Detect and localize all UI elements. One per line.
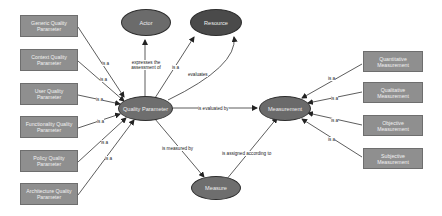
edge-label-is-evaluated-by: is evaluated by: [198, 106, 229, 111]
quality-parameter-node: Quality Parameter: [118, 96, 173, 121]
edge-label-is-a: is a: [331, 96, 338, 101]
edge-label-expresses-assessment: expresses the assessment of: [128, 60, 164, 70]
architecture-quality-parameter-node: Architecture Quality Parameter: [20, 183, 78, 205]
edge-label-is-measured-by: is measured by: [162, 146, 193, 151]
user-quality-parameter-node: User Quality Parameter: [20, 83, 78, 105]
measure-node: Measure: [191, 176, 241, 200]
actor-node: Actor: [121, 9, 171, 36]
edge-label-is-a: is a: [100, 77, 107, 82]
generic-quality-parameter-node: Generic Quality Parameter: [20, 15, 78, 37]
edge-label-is-a: is a: [328, 76, 335, 81]
ontology-diagram: Generic Quality Parameter Context Qualit…: [0, 0, 442, 216]
edge-label-is-a: is a: [328, 137, 335, 142]
context-quality-parameter-node: Context Quality Parameter: [20, 49, 78, 71]
qualitative-measurement-node: Qualitative Measurement: [363, 82, 423, 103]
edge-label-is-a: is a: [105, 156, 112, 161]
quantitative-measurement-node: Quantitative Measurement: [363, 51, 423, 72]
subjective-measurement-node: Subjective Measurement: [363, 148, 423, 169]
objective-measurement-node: Objective Measurement: [363, 115, 423, 136]
edge-label-is-a: is a: [172, 65, 179, 70]
edge-label-is-a: is a: [97, 119, 104, 124]
edge-label-is-a: is a: [102, 61, 109, 66]
policy-quality-parameter-node: Policy Quality Parameter: [20, 150, 78, 172]
resource-node: Resource: [190, 9, 242, 36]
functionality-quality-parameter-node: Functionality Quality Parameter: [20, 116, 78, 138]
edge-label-is-a: is a: [101, 140, 108, 145]
edge-label-is-assigned-according-to: is assigned according to: [222, 151, 271, 156]
edge-label-is-a: is a: [96, 97, 103, 102]
measurement-node: Measurement: [259, 96, 311, 121]
edge-label-is-a: is a: [331, 118, 338, 123]
edge-label-evaluates: evaluates: [188, 72, 208, 77]
